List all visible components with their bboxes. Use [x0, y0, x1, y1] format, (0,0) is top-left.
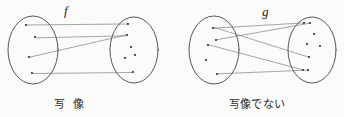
diagram-mapping	[8, 16, 158, 84]
arrow-not-mapping-2	[217, 23, 309, 39]
arrow-mapping-2	[30, 35, 126, 57]
codomain-point-not-mapping-2	[313, 33, 315, 35]
codomain-point-mapping-5	[132, 71, 134, 73]
arrow-not-mapping-3	[209, 45, 307, 71]
codomain-point-mapping-0	[127, 23, 129, 25]
arrow-mapping-1	[36, 36, 126, 38]
arrow-not-mapping-0	[214, 23, 303, 28]
codomain-point-mapping-3	[124, 57, 126, 59]
mapping-figure: f g 写 像 写像でない	[0, 0, 344, 117]
domain-point-mapping-0	[25, 24, 27, 26]
codomain-point-not-mapping-1	[309, 22, 311, 24]
domain-point-not-mapping-1	[215, 39, 217, 41]
codomain-point-mapping-1	[126, 34, 128, 36]
codomain-ellipse-not-mapping	[288, 17, 336, 83]
domain-point-not-mapping-0	[212, 27, 214, 29]
codomain-point-mapping-4	[134, 54, 136, 56]
arrow-mapping-0	[27, 24, 127, 25]
codomain-point-mapping-2	[130, 46, 132, 48]
codomain-point-not-mapping-3	[306, 43, 308, 45]
codomain-ellipse-mapping	[110, 17, 158, 83]
domain-point-mapping-2	[28, 56, 30, 58]
codomain-point-not-mapping-4	[319, 45, 321, 47]
codomain-point-not-mapping-5	[308, 56, 310, 58]
domain-ellipse-mapping	[8, 16, 58, 84]
domain-point-not-mapping-4	[216, 73, 218, 75]
arrow-not-mapping-4	[218, 70, 302, 73]
domain-ellipse-not-mapping	[189, 16, 239, 84]
domain-point-mapping-3	[31, 72, 33, 74]
codomain-point-not-mapping-7	[307, 69, 309, 71]
figure-canvas	[0, 0, 344, 117]
domain-point-not-mapping-3	[205, 59, 207, 61]
codomain-point-not-mapping-0	[303, 22, 305, 24]
diagram-not-mapping	[189, 16, 336, 84]
codomain-point-not-mapping-6	[302, 69, 304, 71]
domain-point-mapping-1	[34, 36, 36, 38]
domain-point-not-mapping-2	[207, 44, 209, 46]
